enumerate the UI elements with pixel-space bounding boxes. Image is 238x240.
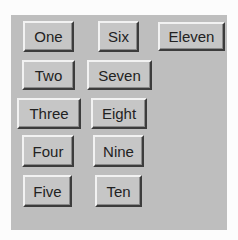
button-six[interactable]: Six [98,21,139,52]
button-ten[interactable]: Ten [95,175,142,207]
button-eight[interactable]: Eight [91,98,147,129]
button-five[interactable]: Five [23,175,72,207]
button-nine[interactable]: Nine [93,135,144,167]
button-two[interactable]: Two [22,60,75,90]
button-panel: One Two Three Four Five Six Seven Eight … [11,15,227,230]
button-eleven[interactable]: Eleven [158,22,225,51]
button-three[interactable]: Three [17,98,81,129]
button-one[interactable]: One [23,21,74,52]
button-four[interactable]: Four [22,135,74,167]
button-seven[interactable]: Seven [87,60,152,90]
